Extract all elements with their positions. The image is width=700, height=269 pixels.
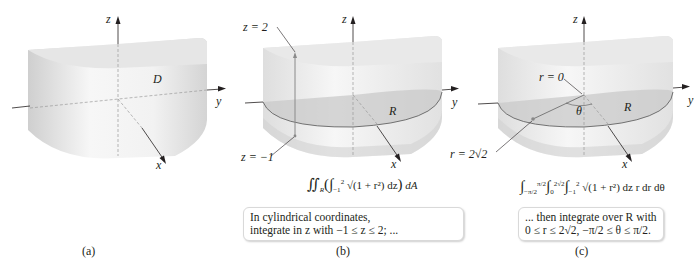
region-label-d: D xyxy=(153,72,162,87)
y-axis-label: y xyxy=(216,94,221,109)
z-axis-label: z xyxy=(106,12,111,27)
z-axis-label: z xyxy=(342,12,347,27)
caption-a: (a) xyxy=(82,244,95,259)
z-arrow-icon xyxy=(582,16,587,24)
caption-c: (c) xyxy=(575,244,588,259)
annotation-theta: θ xyxy=(576,104,582,119)
caption-b: (b) xyxy=(336,244,350,259)
y-axis-label: y xyxy=(452,95,457,110)
explanation-box-b: In cylindrical coordinates, integrate in… xyxy=(243,207,464,241)
annotation-z-top: z = 2 xyxy=(243,20,268,35)
annotation-z-bottom: z = −1 xyxy=(241,150,274,165)
y-arrow-icon xyxy=(218,86,226,92)
x-axis-label: x xyxy=(391,157,396,172)
y-arrow-icon xyxy=(682,84,690,90)
x-axis-label: x xyxy=(622,157,627,172)
iterated-integral-b: ∬R(∫−12 √(1 + r²) dz) dA xyxy=(307,175,418,194)
z-arrow-icon xyxy=(116,16,121,24)
half-cylinder-diagram-c xyxy=(466,0,700,240)
region-label-r: R xyxy=(389,104,396,119)
half-cylinder-diagram-a xyxy=(0,0,233,240)
explanation-box-c: ... then integrate over R with 0 ≤ r ≤ 2… xyxy=(518,207,664,241)
panel-a: z y x D (a) xyxy=(0,0,233,269)
z-axis-label: z xyxy=(573,12,578,27)
edge-point xyxy=(531,117,535,121)
iterated-integral-c: ∫−π/2π/2∫02√2∫−12 √(1 + r²) dz r dr dθ xyxy=(520,178,665,196)
annotation-r-zero: r = 0 xyxy=(539,70,564,85)
half-cylinder-diagram-b xyxy=(233,0,466,240)
z-arrow-icon xyxy=(351,16,356,24)
annotation-r-edge: r = 2√2 xyxy=(450,147,487,162)
panel-c: z y x R r = 0 r = 2√2 θ ∫−π/2π/2∫02√2∫−1… xyxy=(466,0,699,269)
x-axis-label: x xyxy=(156,158,161,173)
y-arrow-icon xyxy=(451,86,459,92)
region-label-r: R xyxy=(624,100,631,115)
panel-b: z y x R z = 2 z = −1 ∬R(∫−12 √(1 + r²) d… xyxy=(233,0,466,269)
y-axis-label: y xyxy=(688,93,693,108)
